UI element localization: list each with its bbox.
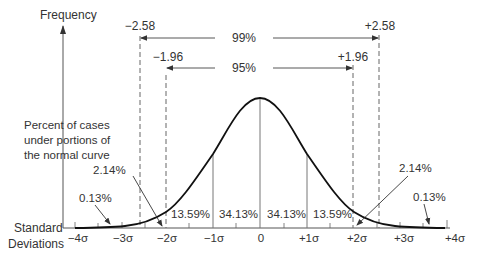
ci99-left-value: −2.58 — [125, 19, 156, 33]
x-axis-label-line2: Deviations — [8, 237, 64, 251]
region-left-1-2: 13.59% — [171, 208, 210, 220]
tick-pos3: +3σ — [394, 232, 414, 244]
tick-neg1: −1σ — [204, 232, 224, 244]
tick-pos4: +4σ — [445, 232, 465, 244]
ci95-left-value: −1.96 — [153, 50, 184, 64]
region-right-1-2: 13.59% — [313, 208, 352, 220]
ci95-label: 95% — [232, 61, 256, 75]
ci95-right-value: +1.96 — [338, 50, 369, 64]
region-left-tail: 0.13% — [79, 192, 112, 204]
normal-distribution-diagram: Frequency Percent of cases under portion… — [0, 0, 485, 263]
ci99-right-value: +2.58 — [365, 19, 396, 33]
region-right-tail: 0.13% — [413, 191, 446, 203]
region-left-0-1: 34.13% — [219, 208, 258, 220]
tick-zero: 0 — [258, 232, 264, 244]
tick-pos1: +1σ — [299, 232, 319, 244]
right-tail-callouts: 2.14% 0.13% — [357, 162, 446, 225]
description-label-line3: the normal curve — [24, 149, 110, 161]
ci99-label: 99% — [232, 31, 256, 45]
description-label-line1: Percent of cases — [24, 119, 110, 131]
x-axis-label-line1: Standard — [14, 221, 63, 235]
x-axis-major-ticks — [75, 220, 447, 228]
ci99-interval: 99% −2.58 +2.58 — [125, 19, 396, 45]
region-left-2-3: 2.14% — [93, 164, 126, 176]
description-label-line2: under portions of — [24, 134, 111, 146]
tick-pos2: +2σ — [347, 232, 367, 244]
sigma-tick-labels: −4σ −3σ −2σ −1σ 0 +1σ +2σ +3σ +4σ — [68, 232, 465, 244]
tick-neg2: −2σ — [157, 232, 177, 244]
tick-neg4: −4σ — [68, 232, 88, 244]
y-axis-arrow-icon — [60, 25, 66, 34]
ci95-interval: 95% −1.96 +1.96 — [153, 50, 369, 75]
region-right-0-1: 34.13% — [267, 208, 306, 220]
region-right-2-3: 2.14% — [399, 162, 432, 174]
left-tail-callouts: 2.14% 0.13% — [79, 164, 162, 226]
y-axis-label: Frequency — [40, 8, 97, 22]
tick-neg3: −3σ — [113, 232, 133, 244]
